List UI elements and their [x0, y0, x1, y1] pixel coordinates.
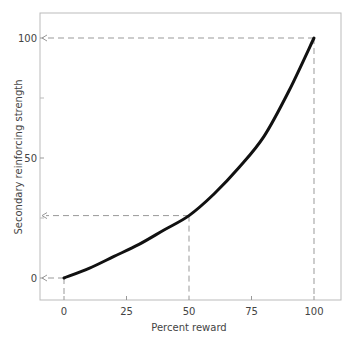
chart: 0255075100050100 Percent reward Secondar… [0, 0, 350, 342]
x-axis-title: Percent reward [151, 322, 226, 333]
guide-lines [42, 35, 314, 296]
x-tick-label: 100 [304, 306, 323, 317]
y-tick-label: 50 [24, 153, 37, 164]
x-tick-label: 50 [183, 306, 196, 317]
x-tick-label: 75 [245, 306, 258, 317]
y-tick-label: 100 [18, 33, 37, 44]
plot-frame [40, 13, 341, 300]
y-tick-label: 0 [31, 273, 37, 284]
x-tick-label: 25 [120, 306, 133, 317]
y-axis-title: Secondary reinforcing strength [13, 79, 24, 234]
axis-ticks [40, 38, 314, 300]
x-tick-label: 0 [61, 306, 67, 317]
data-curve [64, 38, 314, 278]
tick-labels: 0255075100050100 [18, 33, 324, 317]
